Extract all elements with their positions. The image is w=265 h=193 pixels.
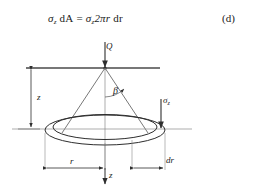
cone-left-edge <box>62 68 105 133</box>
depth-axis-label: z <box>109 170 113 180</box>
stress-label: σz <box>163 95 170 106</box>
cone-right-edge <box>105 68 148 133</box>
stress-label-subscript: z <box>167 100 169 106</box>
beta-angle-label: β <box>113 85 118 96</box>
radius-label: r <box>70 156 74 166</box>
depth-label: z <box>37 92 41 102</box>
figure-panel: σzdA=σz2πrdr (d) <box>0 0 265 193</box>
increment-label: dr <box>166 155 174 165</box>
load-label: Q <box>106 41 113 51</box>
